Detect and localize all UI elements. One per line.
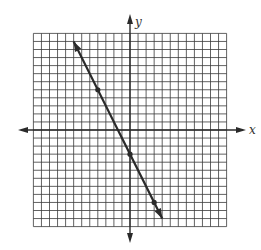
line-arrow-end-icon <box>155 208 163 219</box>
data-point <box>95 87 100 92</box>
x-axis-arrow-left-icon <box>18 127 28 133</box>
line-arrow-start-icon <box>74 41 82 52</box>
y-axis-arrow-down-icon <box>127 233 133 243</box>
data-point <box>127 152 132 157</box>
axes: x y <box>18 14 256 243</box>
data-point <box>152 200 157 205</box>
coordinate-plane: x y <box>0 0 261 250</box>
y-axis-arrow-up-icon <box>127 14 133 24</box>
x-axis-arrow-right-icon <box>236 127 246 133</box>
x-axis-label: x <box>249 123 256 137</box>
y-axis-label: y <box>134 15 142 29</box>
